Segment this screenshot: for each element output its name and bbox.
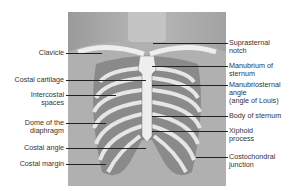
- leader-costal-cartilage: [66, 80, 146, 81]
- leader-clavicle: [66, 53, 102, 54]
- label-costochondral-junction: Costochondral junction: [229, 153, 275, 169]
- label-costal-margin: Costal margin: [20, 160, 64, 168]
- label-manubrium: Manubrium of sternum: [229, 62, 273, 78]
- leader-suprasternal-notch: [153, 43, 228, 44]
- thorax-photo: [68, 12, 226, 186]
- label-body-of-sternum: Body of sternum: [229, 112, 281, 120]
- leader-xiphoid-process: [152, 131, 228, 132]
- label-intercostal-spaces: Intercostal spaces: [31, 91, 64, 107]
- leader-manubrium: [152, 66, 228, 67]
- leader-body-of-sternum: [152, 116, 228, 117]
- label-suprasternal-notch: Suprasternal notch: [229, 39, 270, 55]
- leader-costochondral-junction: [196, 157, 228, 158]
- leader-intercostal-spaces: [66, 95, 116, 96]
- label-xiphoid-process: Xiphoid process: [229, 127, 254, 143]
- label-costal-cartilage: Costal cartilage: [14, 76, 64, 84]
- leader-manubriosternal-angle: [152, 85, 228, 86]
- label-manubriosternal-angle: Manubriosternal angle (angle of Louis): [229, 81, 281, 105]
- label-costal-angle: Costal angle: [24, 144, 64, 152]
- leader-costal-angle: [66, 148, 146, 149]
- label-clavicle: Clavicle: [39, 49, 64, 57]
- leader-dome-of-diaphragm: [66, 123, 106, 124]
- label-dome-of-diaphragm: Dome of the diaphragm: [25, 119, 64, 135]
- leader-costal-margin: [66, 164, 106, 165]
